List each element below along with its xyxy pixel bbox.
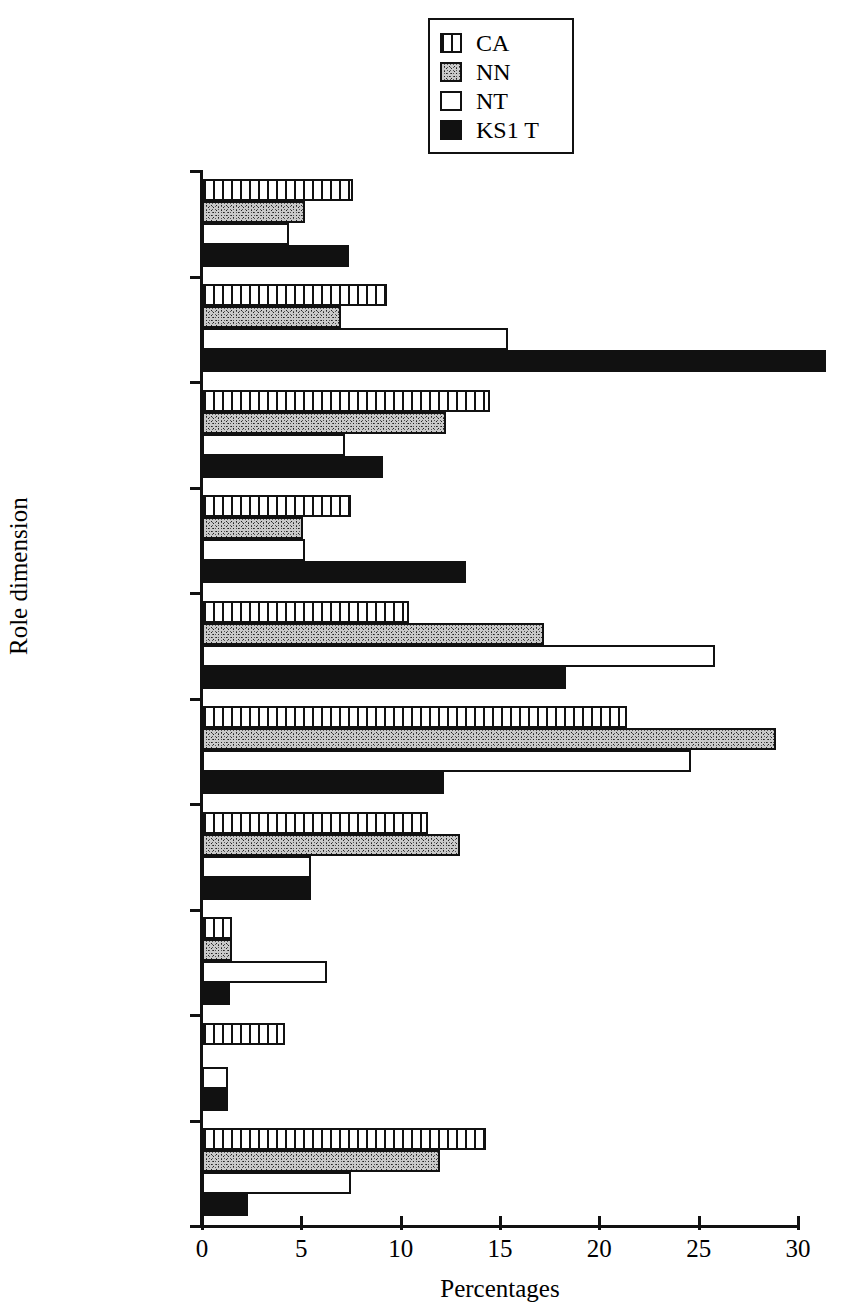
bar-nn (202, 834, 460, 856)
legend-item-nt: NT (440, 86, 562, 115)
bar-ks1-t (202, 456, 383, 478)
x-axis-title: Percentages (202, 1275, 798, 1303)
x-tick (300, 1216, 303, 1230)
x-tick-label: 20 (587, 1236, 612, 1262)
bar-ca (202, 706, 627, 728)
bar-nt (202, 1172, 351, 1194)
bar-ca (202, 390, 490, 412)
bar-nt (202, 856, 311, 878)
y-tick (190, 698, 203, 701)
legend-label: KS1 T (476, 118, 539, 142)
y-tick (190, 487, 203, 490)
bar-nt (202, 645, 715, 667)
bar-ks1-t (202, 878, 311, 900)
bar-nt (202, 434, 345, 456)
legend-label: CA (476, 31, 509, 55)
x-tick (400, 1216, 403, 1230)
x-tick (499, 1216, 502, 1230)
legend-label: NN (476, 60, 511, 84)
bar-nt (202, 539, 305, 561)
legend-item-ks1-t: KS1 T (440, 115, 562, 144)
bar-ks1-t (202, 667, 566, 689)
bar-nt (202, 328, 508, 350)
bar-ca (202, 179, 353, 201)
bar-ca (202, 812, 428, 834)
chart-legend: CANNNTKS1 T (428, 18, 574, 154)
bar-nt (202, 750, 691, 772)
bar-ca (202, 917, 232, 939)
chart-figure: CANNNTKS1 T 051015202530 No act/chdnMana… (0, 0, 850, 1311)
legend-swatch-icon (440, 91, 462, 111)
bar-nn (202, 517, 303, 539)
bar-ks1-t (202, 1089, 228, 1111)
y-tick (190, 276, 203, 279)
x-tick (598, 1216, 601, 1230)
x-tick-label: 0 (196, 1236, 209, 1262)
bar-ks1-t (202, 561, 466, 583)
bar-ca (202, 1128, 486, 1150)
x-tick (797, 1216, 800, 1230)
y-tick (190, 909, 203, 912)
bar-nn (202, 412, 446, 434)
y-tick (190, 803, 203, 806)
x-tick-label: 5 (295, 1236, 308, 1262)
legend-swatch-icon (440, 62, 462, 82)
bar-nn (202, 728, 776, 750)
bar-nn (202, 306, 341, 328)
bar-ks1-t (202, 983, 230, 1005)
x-tick-label: 10 (388, 1236, 413, 1262)
legend-swatch-icon (440, 33, 462, 53)
y-tick (190, 1014, 203, 1017)
x-tick-label: 15 (488, 1236, 513, 1262)
bar-nn (202, 939, 232, 961)
y-tick (190, 1225, 203, 1228)
y-tick (190, 592, 203, 595)
x-tick-label: 25 (686, 1236, 711, 1262)
bar-nt (202, 961, 327, 983)
legend-item-nn: NN (440, 57, 562, 86)
bar-ks1-t (202, 1194, 248, 1216)
x-tick (698, 1216, 701, 1230)
bar-ca (202, 284, 387, 306)
plot-area: 051015202530 No act/chdnManagementMon.be… (202, 170, 798, 1225)
bar-ca (202, 495, 351, 517)
bar-ks1-t (202, 350, 826, 372)
bar-nt (202, 223, 289, 245)
x-tick-label: 30 (786, 1236, 811, 1262)
bar-nt (202, 1067, 228, 1089)
y-tick (190, 170, 203, 173)
bar-nn (202, 1150, 440, 1172)
y-tick (190, 1120, 203, 1123)
bar-ks1-t (202, 245, 349, 267)
bar-ca (202, 601, 409, 623)
bar-nn (202, 623, 544, 645)
bar-nn (202, 201, 305, 223)
bar-ks1-t (202, 772, 444, 794)
legend-label: NT (476, 89, 508, 113)
bar-ca (202, 1023, 285, 1045)
legend-swatch-icon (440, 120, 462, 140)
y-axis-title: Role dimension (5, 497, 33, 655)
y-tick (190, 381, 203, 384)
legend-item-ca: CA (440, 28, 562, 57)
